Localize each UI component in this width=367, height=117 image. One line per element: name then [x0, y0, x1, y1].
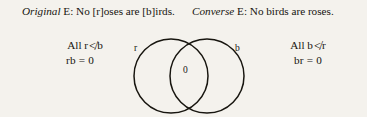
converse-label: Converse: [192, 5, 234, 17]
venn-label-right: b: [235, 43, 240, 53]
original-body: E: No [r]oses are [b]irds.: [61, 5, 175, 17]
left-formula-suffix: b: [97, 39, 103, 51]
right-formula-block: All b≮r br = 0: [262, 38, 354, 68]
right-formula-line-2: br = 0: [262, 53, 354, 68]
venn-diagram: r b 0: [126, 36, 252, 116]
right-formula-prefix: All b: [290, 39, 313, 51]
left-formula-line-2: rb = 0: [34, 53, 122, 68]
right-formula-suffix: r: [322, 39, 326, 51]
original-label: Original: [22, 5, 61, 17]
not-less-than-icon: ≮: [313, 39, 322, 53]
venn-circles-svg: [126, 36, 252, 116]
left-formula-line-1: All r≮b: [34, 38, 122, 53]
converse-body: E: No birds are roses.: [234, 5, 333, 17]
original-proposition-text: Original E: No [r]oses are [b]irds.: [22, 5, 177, 19]
left-formula-prefix: All r: [67, 39, 88, 51]
venn-intersection-label: 0: [183, 65, 188, 75]
converse-proposition-text: Converse E: No birds are roses.: [192, 5, 344, 19]
not-less-than-icon: ≮: [88, 39, 97, 53]
right-formula-line-1: All b≮r: [262, 38, 354, 53]
left-formula-block: All r≮b rb = 0: [34, 38, 122, 68]
figure-page: Original E: No [r]oses are [b]irds. Conv…: [0, 0, 367, 117]
venn-circle-left: [134, 39, 208, 113]
venn-label-left: r: [134, 43, 137, 53]
venn-circle-right: [170, 39, 244, 113]
